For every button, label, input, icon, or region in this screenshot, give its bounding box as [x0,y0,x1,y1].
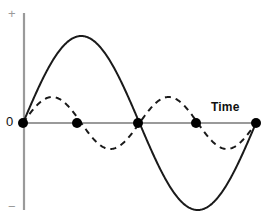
time-axis-label: Time [211,101,240,113]
zero-axis-label: 0 [6,115,13,128]
negative-axis-sign: − [8,200,16,213]
zero-crossing-marker-4 [191,118,201,128]
zero-crossing-marker-1 [18,118,28,128]
zero-crossing-marker-2 [72,118,82,128]
positive-axis-sign: + [8,7,16,20]
zero-crossing-marker-5 [251,118,261,128]
zero-crossing-marker-3 [133,118,143,128]
waveform-figure: + − 0 Time [0,0,271,223]
